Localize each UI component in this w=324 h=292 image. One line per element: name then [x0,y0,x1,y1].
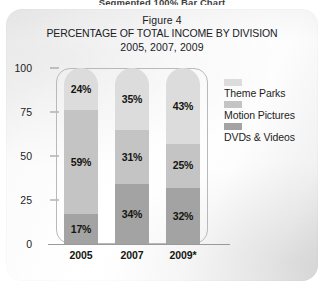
y-tick-label-25: 25 [6,194,32,206]
legend-swatch-icon [224,79,242,86]
legend-item-theme-parks[interactable]: Theme Parks [224,79,318,100]
bar-segment-2007-theme-parks[interactable]: 35% [115,68,149,130]
figure-screenshot: Segmented 100% Bar Chart Figure 4 PERCEN… [0,0,324,292]
legend-item-label: Theme Parks [224,86,318,100]
stacked-bar-2009[interactable]: 43% 25% 32% [166,68,200,244]
x-axis-label-2005: 2005 [55,249,107,261]
page-header-text: Segmented 100% Bar Chart [0,0,324,5]
bar-segment-2005-motion-pictures[interactable]: 59% [64,110,98,214]
y-tick-label-100: 100 [6,62,32,74]
figure-titles: Figure 4 PERCENTAGE OF TOTAL INCOME BY D… [6,14,318,54]
bar-segment-2005-dvds-videos[interactable]: 17% [64,214,98,244]
bar-segment-label: 25% [173,160,193,171]
legend-item-dvds-videos[interactable]: DVDs & Videos [224,123,318,144]
bar-segment-2009-motion-pictures[interactable]: 25% [166,144,200,188]
bar-segment-2007-dvds-videos[interactable]: 34% [115,184,149,244]
x-axis-label-2009: 2009* [157,249,209,261]
bar-segment-label: 59% [71,157,91,168]
bar-column-2009[interactable]: 43% 25% 32% [166,68,200,244]
bar-segment-label: 31% [122,152,142,163]
bar-segment-label: 32% [173,211,193,222]
legend-item-label: DVDs & Videos [224,130,318,144]
figure-panel: Figure 4 PERCENTAGE OF TOTAL INCOME BY D… [6,9,318,281]
bar-group: 24% 59% 17% 35% [56,68,208,244]
bar-segment-label: 35% [122,94,142,105]
bar-segment-label: 43% [173,101,193,112]
y-tick-label-75: 75 [6,106,32,118]
y-tick-label-50: 50 [6,150,32,162]
x-axis-label-2007: 2007 [106,249,158,261]
figure-label: Figure 4 [6,14,318,27]
y-tick-label-0: 0 [6,238,32,250]
bar-segment-2005-theme-parks[interactable]: 24% [64,68,98,110]
legend-swatch-icon [224,101,242,108]
legend-item-motion-pictures[interactable]: Motion Pictures [224,101,318,122]
bar-segment-label: 24% [71,84,91,95]
plot-area: 100 75 50 25 0 24% 59% [28,68,208,260]
x-axis-baseline [48,244,230,245]
chart-title: PERCENTAGE OF TOTAL INCOME BY DIVISION [6,27,318,41]
bar-column-2005[interactable]: 24% 59% 17% [64,68,98,244]
bar-segment-2009-dvds-videos[interactable]: 32% [166,188,200,244]
bar-segment-2007-motion-pictures[interactable]: 31% [115,130,149,185]
bar-segment-label: 34% [122,209,142,220]
stacked-bar-2007[interactable]: 35% 31% 34% [115,68,149,244]
bar-column-2007[interactable]: 35% 31% 34% [115,68,149,244]
bar-segment-2009-theme-parks[interactable]: 43% [166,68,200,144]
legend-item-label: Motion Pictures [224,108,318,122]
stacked-bar-2005[interactable]: 24% 59% 17% [64,68,98,244]
bar-segment-label: 17% [71,224,91,235]
chart-subtitle: 2005, 2007, 2009 [6,41,318,55]
legend-swatch-icon [224,123,242,130]
legend: Theme Parks Motion Pictures DVDs & Video… [224,79,318,145]
